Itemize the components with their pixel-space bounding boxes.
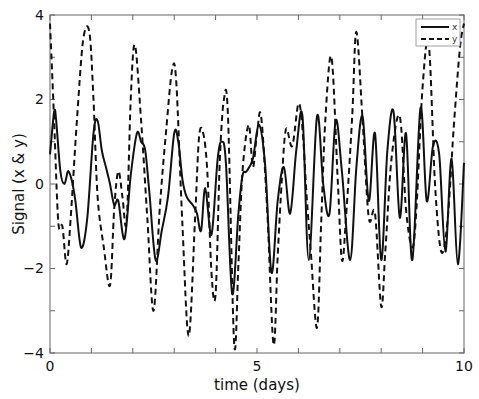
x-axis-label: time (days): [214, 376, 300, 394]
ytick-label-0: 0: [35, 176, 44, 192]
xtick-label-10: 10: [455, 358, 473, 374]
xtick-label-0: 0: [46, 358, 55, 374]
y-axis-label: Signal (x & y): [10, 133, 28, 235]
legend-y-label: y: [452, 34, 458, 44]
ytick-label-neg4: −4: [23, 345, 44, 361]
xtick-label-5: 5: [253, 358, 262, 374]
legend: x y: [416, 19, 460, 46]
legend-x-label: x: [452, 22, 458, 32]
ytick-label-neg2: −2: [23, 260, 44, 276]
line-chart: 4 2 0 −2 −4 0 5 10 time (days) Signal (x…: [0, 0, 479, 399]
ytick-label-2: 2: [35, 91, 44, 107]
ytick-label-4: 4: [35, 7, 44, 23]
